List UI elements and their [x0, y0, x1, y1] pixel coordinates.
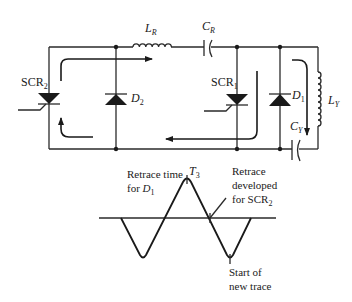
flow-arrow-top	[61, 59, 152, 81]
flow-arrow-left-up	[61, 118, 93, 137]
cr-plate-curved	[210, 40, 213, 57]
ly-label: LY	[327, 93, 341, 109]
retrace-d1-line2: for D1	[127, 182, 155, 197]
retrace-scr2-line2: developed	[232, 179, 278, 191]
leader-line	[210, 198, 226, 218]
scr2-symbol	[18, 93, 60, 110]
start-trace-line1: Start of	[229, 266, 262, 278]
scr1-label: SCR1	[211, 75, 238, 91]
junction-dot	[235, 45, 239, 49]
retrace-scr2-line1: Retrace	[232, 165, 266, 177]
start-trace-line2: new trace	[229, 280, 272, 292]
retrace-scr2-line3: for SCR2	[232, 193, 272, 208]
junction-dot	[235, 147, 239, 151]
annotation-retrace-d1: Retrace time for D1	[127, 168, 183, 197]
cy-label: CY	[290, 119, 304, 135]
annotation-retrace-scr2: Retrace developed for SCR2	[232, 165, 278, 208]
scr2-triangle	[38, 93, 60, 104]
junction-dot	[278, 147, 282, 151]
scr1-triangle	[226, 94, 248, 105]
scr1-gate	[204, 105, 232, 111]
d2-triangle	[105, 94, 127, 105]
d2-label: D2	[130, 91, 144, 107]
d1-label: D1	[291, 88, 305, 104]
cr-capacitor	[204, 40, 212, 57]
t3-label: T3	[189, 164, 200, 180]
d1-triangle	[269, 94, 291, 106]
d2-symbol	[105, 94, 127, 105]
ly-inductor	[318, 72, 321, 126]
annotation-start-trace: Start of new trace	[229, 266, 272, 292]
retrace-d1-line1: Retrace time	[127, 168, 183, 180]
cy-plate-curved	[298, 140, 301, 161]
junction-dot	[114, 147, 118, 151]
lr-inductor	[133, 44, 171, 47]
junction-dot	[114, 45, 118, 49]
cr-label: CR	[202, 19, 215, 35]
scr2-label: SCR2	[21, 75, 48, 91]
junction-dot	[278, 45, 282, 49]
lr-label: LR	[144, 21, 157, 37]
scr1-symbol	[204, 94, 248, 111]
circuit-diagram: SCR2 D2 LR CR SCR1 D1 LY	[0, 0, 352, 302]
d1-symbol	[269, 94, 291, 106]
cy-capacitor	[292, 140, 300, 161]
scr2-gate	[18, 104, 46, 110]
